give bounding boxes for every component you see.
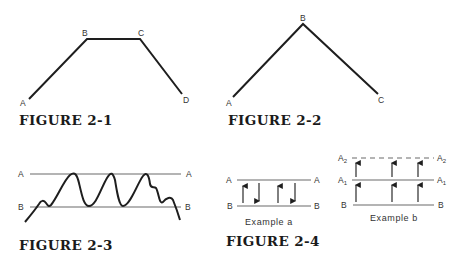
line-label-b-right: B xyxy=(314,201,320,211)
line-label-a-left: A xyxy=(18,169,24,179)
point-label-a: A xyxy=(20,98,26,108)
line-label-a1-right: A1 xyxy=(437,175,447,186)
figure-2-2: A B C xyxy=(226,13,384,108)
line-label-b-right: B xyxy=(438,200,444,210)
line-label-b-left: B xyxy=(341,200,347,210)
trend-line-abc xyxy=(233,24,378,97)
point-label-b: B xyxy=(82,28,88,38)
price-curve xyxy=(25,173,180,222)
example-b-label: Example b xyxy=(370,213,418,223)
figure-2-4-example-a: A A B B Example a xyxy=(226,175,320,227)
line-label-b-right: B xyxy=(185,202,191,212)
caption-figure-2-4: FIGURE 2-4 xyxy=(226,233,320,249)
line-label-a-right: A xyxy=(314,175,320,185)
trend-line-abcd xyxy=(29,39,182,99)
caption-figure-2-1: FIGURE 2-1 xyxy=(19,112,113,128)
line-label-b-left: B xyxy=(227,201,233,211)
point-label-b: B xyxy=(300,13,306,23)
line-label-a-left: A xyxy=(226,175,232,185)
figure-2-3: A A B B xyxy=(18,169,192,222)
point-label-c: C xyxy=(378,95,384,105)
figure-2-1: A B C D xyxy=(20,28,189,108)
point-label-a: A xyxy=(226,98,232,108)
point-label-d: D xyxy=(183,95,189,105)
line-label-a1-left: A1 xyxy=(338,175,348,186)
point-label-c: C xyxy=(138,28,144,38)
line-label-b-left: B xyxy=(18,202,24,212)
figure-2-4-example-b: A2 A2 A1 A1 B B Example b xyxy=(338,153,447,223)
caption-figure-2-2: FIGURE 2-2 xyxy=(228,112,322,128)
line-label-a2-right: A2 xyxy=(437,153,447,164)
line-label-a-right: A xyxy=(186,169,192,179)
caption-figure-2-3: FIGURE 2-3 xyxy=(19,237,113,253)
line-label-a2-left: A2 xyxy=(338,153,348,164)
example-a-label: Example a xyxy=(245,217,293,227)
diagram-canvas: A B C D A B C A A B B A A B B Example a xyxy=(0,0,468,259)
